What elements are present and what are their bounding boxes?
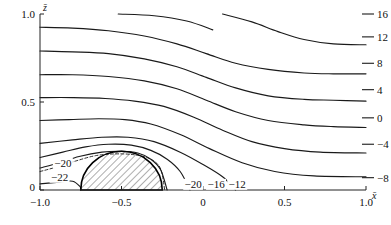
obstacle-semicircle xyxy=(81,151,163,190)
y-tick-label: 1.0 xyxy=(21,8,35,20)
contour-edge-label-16: 16 xyxy=(377,8,389,20)
y-axis-name: z̄ xyxy=(42,2,47,13)
x-tick-label: 0 xyxy=(200,196,206,208)
obstacle-group xyxy=(81,151,163,190)
contour-inline-label: −20 xyxy=(54,157,72,169)
y-tick-label: 0.5 xyxy=(21,96,35,108)
contour-edge-label-12: 12 xyxy=(377,31,388,43)
x-tick-label: −0.5 xyxy=(112,196,132,208)
contour-edge-label-8: 8 xyxy=(377,57,383,69)
x-tick-label: −1.0 xyxy=(30,196,50,208)
contour-edge-label--8: −8 xyxy=(377,172,389,184)
contour-edge-label--4: −4 xyxy=(377,138,389,150)
contour-plot-svg: −1.0−0.500.51.000.51.0 1612840−4−8−20−22… xyxy=(0,0,391,225)
axis-spines xyxy=(40,14,366,190)
contour-inline-label: −16 xyxy=(207,178,225,190)
contour-line-12 xyxy=(40,27,366,74)
contour-edge-label-0: 0 xyxy=(377,112,383,124)
contour-plot-figure: −1.0−0.500.51.000.51.0 1612840−4−8−20−22… xyxy=(0,0,391,225)
axes-group xyxy=(40,14,366,190)
contour-edge-label-4: 4 xyxy=(377,84,383,96)
contour-inline-label: −12 xyxy=(229,178,246,190)
contour-line-8 xyxy=(40,51,366,101)
contour-line-16b xyxy=(223,14,366,45)
contour-line-16 xyxy=(118,14,213,30)
contour-lines-group xyxy=(40,14,366,190)
contour-line-4 xyxy=(40,75,366,128)
contour-inline-label: −22 xyxy=(51,171,68,183)
y-tick-label: 0 xyxy=(30,181,36,193)
contour-inline-label: −20 xyxy=(185,178,203,190)
x-tick-label: 0.5 xyxy=(278,196,292,208)
x-axis-name: x̄ xyxy=(371,190,377,201)
